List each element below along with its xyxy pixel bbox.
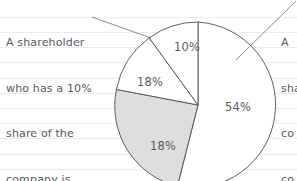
- annotation-right: A sha co co the ov sha car de co po: [281, 5, 297, 181]
- annotation-left-line: who has a 10%: [6, 81, 124, 96]
- pie-label-18-shaded: 18%: [150, 139, 176, 153]
- pie-label-10: 10%: [174, 40, 200, 54]
- pie-label-54: 54%: [225, 100, 251, 114]
- annotation-right-line: A: [281, 35, 297, 50]
- annotation-right-line: co: [281, 172, 297, 181]
- annotation-left-line: A shareholder: [6, 35, 124, 50]
- annotation-left-line: company is: [6, 172, 124, 181]
- page-canvas: 54% 10% 18% 18% A shareholder who has a …: [0, 0, 297, 181]
- pie-label-18-upper: 18%: [137, 75, 163, 89]
- annotation-left-line: share of the: [6, 126, 124, 141]
- annotation-right-line: sha: [281, 81, 297, 96]
- annotation-right-line: co: [281, 126, 297, 141]
- annotation-left: A shareholder who has a 10% share of the…: [6, 5, 124, 181]
